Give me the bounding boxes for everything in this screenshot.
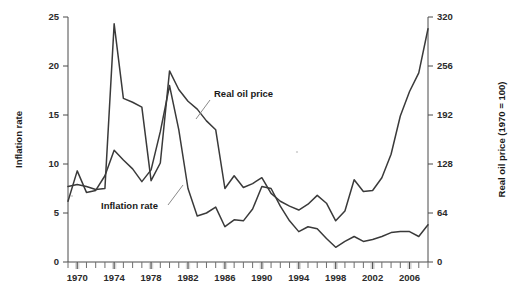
inflation-rate-label: Inflation rate bbox=[101, 200, 158, 211]
y-axis-right-title: Real oil price (1970 = 100) bbox=[496, 82, 507, 198]
y-tick-label-left: 20 bbox=[48, 60, 59, 71]
series-line-real-oil-price bbox=[68, 24, 428, 221]
y-tick-label-left: 5 bbox=[54, 207, 60, 218]
real-oil-price-label: Real oil price bbox=[214, 88, 273, 99]
y-tick-label-right: 320 bbox=[437, 11, 453, 22]
x-tick-label: 1994 bbox=[288, 272, 310, 283]
x-tick-label: 1998 bbox=[325, 272, 346, 283]
y-tick-label-right: 64 bbox=[437, 207, 448, 218]
y-tick-label-right: 128 bbox=[437, 158, 453, 169]
y-tick-label-left: 10 bbox=[48, 158, 59, 169]
y-axis-left-title: Inflation rate bbox=[13, 111, 24, 168]
scan-speck bbox=[71, 195, 73, 197]
x-tick-label: 2002 bbox=[362, 272, 383, 283]
y-tick-label-right: 0 bbox=[437, 256, 442, 267]
scan-speck bbox=[296, 151, 298, 153]
y-tick-label-left: 15 bbox=[48, 109, 59, 120]
x-tick-label: 1978 bbox=[141, 272, 162, 283]
x-tick-label: 1974 bbox=[104, 272, 126, 283]
x-tick-label: 2006 bbox=[399, 272, 420, 283]
x-tick-label: 1990 bbox=[251, 272, 272, 283]
chart-plot-area: 0510152025064128192256320197019741978198… bbox=[0, 0, 525, 297]
series-line-inflation-rate bbox=[68, 86, 428, 248]
y-tick-label-left: 25 bbox=[48, 11, 59, 22]
x-tick-label: 1970 bbox=[67, 272, 88, 283]
x-tick-label: 1986 bbox=[214, 272, 235, 283]
y-tick-label-right: 256 bbox=[437, 60, 453, 71]
inflation-rate-label-leader bbox=[168, 185, 183, 205]
y-tick-label-right: 192 bbox=[437, 109, 453, 120]
chart-figure: 0510152025064128192256320197019741978198… bbox=[0, 0, 525, 297]
y-tick-label-left: 0 bbox=[54, 256, 59, 267]
x-tick-label: 1982 bbox=[177, 272, 198, 283]
